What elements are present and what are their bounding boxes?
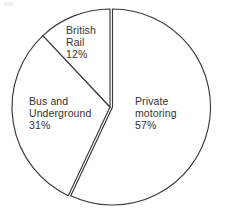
- pie-label-british-rail: British Rail 12%: [66, 24, 96, 61]
- pie-label-bus-and-underground-line1: Bus and: [29, 95, 91, 107]
- pie-label-private-motoring-line2: motoring: [135, 107, 177, 119]
- pie-label-private-motoring-line1: Private: [135, 95, 177, 107]
- scan-artifact: [4, 2, 13, 6]
- pie-label-bus-and-underground-percent: 31%: [29, 119, 91, 131]
- pie-label-british-rail-line2: Rail: [66, 36, 96, 48]
- pie-label-bus-and-underground: Bus and Underground 31%: [29, 95, 91, 132]
- pie-label-private-motoring-percent: 57%: [135, 119, 177, 131]
- pie-chart-figure: British Rail 12% Bus and Underground 31%…: [0, 0, 225, 215]
- pie-label-bus-and-underground-line2: Underground: [29, 107, 91, 119]
- pie-label-british-rail-percent: 12%: [66, 48, 96, 60]
- pie-label-private-motoring: Private motoring 57%: [135, 95, 177, 132]
- pie-label-british-rail-line1: British: [66, 24, 96, 36]
